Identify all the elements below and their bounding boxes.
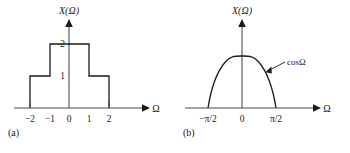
- cos-annotation-label: cosΩ: [287, 57, 306, 67]
- figure-container: X(Ω) Ω 2 1 −2 −1 0 1 2 (a): [0, 0, 350, 153]
- x-axis-label-b: Ω: [323, 103, 330, 114]
- x-tick-label-0: 0: [67, 114, 72, 124]
- cos-annotation-arrowhead: [266, 67, 272, 74]
- x-axis-arrowhead-a: [142, 104, 150, 112]
- x-axis-label-a: Ω: [152, 103, 159, 114]
- y-tick-label-1: 1: [60, 71, 65, 81]
- panel-b-plot: cosΩ X(Ω) Ω −π/2 0 π/2: [175, 0, 350, 153]
- panel-b: cosΩ X(Ω) Ω −π/2 0 π/2 (b): [175, 0, 350, 153]
- panel-a: X(Ω) Ω 2 1 −2 −1 0 1 2 (a): [0, 0, 175, 153]
- x-tick-label-1: 1: [87, 114, 92, 124]
- x-tick-label-minus1: −1: [45, 114, 55, 124]
- y-axis-arrowhead-b: [238, 19, 246, 27]
- y-axis-label-b: X(Ω): [231, 5, 253, 17]
- panel-a-plot: X(Ω) Ω 2 1 −2 −1 0 1 2: [0, 0, 175, 153]
- y-axis-arrowhead-a: [65, 19, 73, 27]
- x-tick-label-minus2: −2: [25, 114, 35, 124]
- panel-b-sublabel: (b): [183, 128, 195, 138]
- x-tick-label-2: 2: [107, 114, 112, 124]
- y-axis-label-a: X(Ω): [58, 5, 80, 17]
- y-tick-label-2: 2: [60, 39, 65, 49]
- panel-a-sublabel: (a): [8, 128, 19, 138]
- x-axis-arrowhead-b: [313, 104, 321, 112]
- x-tick-label-minus-pi-over-2: −π/2: [199, 114, 217, 124]
- x-tick-label-zero-b: 0: [240, 114, 245, 124]
- x-tick-label-pi-over-2: π/2: [270, 114, 282, 124]
